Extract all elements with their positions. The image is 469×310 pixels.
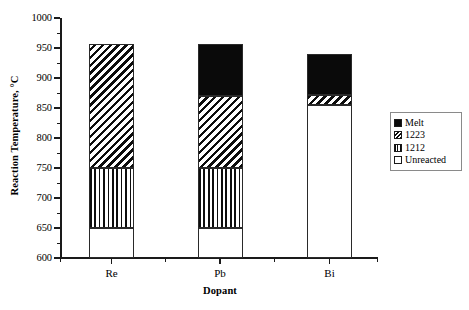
bar-segment-pb-1212 [198,168,243,228]
y-minor-tick-675 [57,213,61,214]
bar-segment-re-1212 [89,168,134,228]
y-tick-label-950: 950 [12,43,52,53]
legend-item-unreacted: Unreacted [394,154,458,166]
y-tick-650 [54,227,60,228]
x-tick-label-pb: Pb [190,267,250,279]
y-tick-700 [54,197,60,198]
bar-pb [198,18,243,258]
chart-legend: Melt12231212Unreacted [390,112,462,171]
y-axis-title: Reaction Temperature, °C [9,56,20,216]
y-minor-tick-725 [57,183,61,184]
y-minor-tick-975 [57,33,61,34]
y-minor-tick-925 [57,63,61,64]
bar-segment-pb-1223 [198,96,243,168]
x-tick-re [111,258,112,264]
bar-segment-re-1223 [89,44,134,168]
stacked-bar-chart: 6006507007508008509009501000 RePbBi Reac… [0,0,469,310]
y-axis-line [60,18,62,258]
y-tick-label-650: 650 [12,223,52,233]
y-tick-800 [54,137,60,138]
melt-swatch-icon [394,119,402,127]
y-tick-950 [54,47,60,48]
x-tick-label-re: Re [82,267,142,279]
y-tick-900 [54,77,60,78]
y-tick-750 [54,167,60,168]
bar-segment-pb-melt [198,44,243,96]
legend-item-1212: 1212 [394,142,458,154]
bar-segment-pb-unreacted [198,228,243,258]
bar-segment-bi-melt [307,54,352,95]
legend-label-unreacted: Unreacted [405,155,446,165]
bar-bi [307,18,352,258]
x-minor-tick-0 [60,258,61,262]
x-tick-bi [329,258,330,264]
legend-label-melt: Melt [405,118,424,128]
y-minor-tick-875 [57,93,61,94]
y-tick-label-600: 600 [12,253,52,263]
x-minor-tick-1 [165,258,166,262]
x-minor-tick-3 [377,258,378,262]
x-axis-title: Dopant [0,285,440,296]
y-tick-label-1000: 1000 [12,13,52,23]
legend-label-1212: 1212 [405,143,425,153]
x-minor-tick-2 [274,258,275,262]
unreacted-swatch-icon [394,156,402,164]
bar-re [89,18,134,258]
x-tick-label-bi: Bi [300,267,360,279]
legend-item-melt: Melt [394,117,458,129]
y-minor-tick-625 [57,243,61,244]
bar-segment-re-unreacted [89,228,134,258]
bar-segment-bi-1223 [307,95,352,105]
legend-label-1223: 1223 [405,130,425,140]
y-minor-tick-775 [57,153,61,154]
y-tick-850 [54,107,60,108]
bar-segment-bi-unreacted [307,105,352,258]
hatch-1212-swatch-icon [394,144,402,152]
legend-item-1223: 1223 [394,129,458,141]
hatch-1223-swatch-icon [394,131,402,139]
y-tick-1000 [54,17,60,18]
y-minor-tick-825 [57,123,61,124]
x-tick-pb [219,258,220,264]
